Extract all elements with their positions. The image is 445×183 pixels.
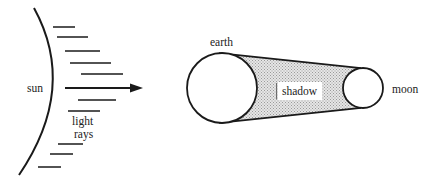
- earth-label: earth: [210, 36, 233, 48]
- moon-circle: [343, 68, 383, 108]
- earth-circle: [187, 53, 257, 123]
- shadow-label: shadow: [282, 85, 318, 97]
- eclipse-diagram: sun light rays earth moon shadow: [0, 0, 445, 183]
- light-rays-label-line2: rays: [74, 128, 94, 141]
- moon-label: moon: [392, 83, 418, 95]
- light-arrow: [65, 84, 143, 93]
- light-rays-label-line1: light: [72, 115, 94, 128]
- sun-label: sun: [27, 82, 43, 94]
- arrowhead-icon: [130, 84, 143, 93]
